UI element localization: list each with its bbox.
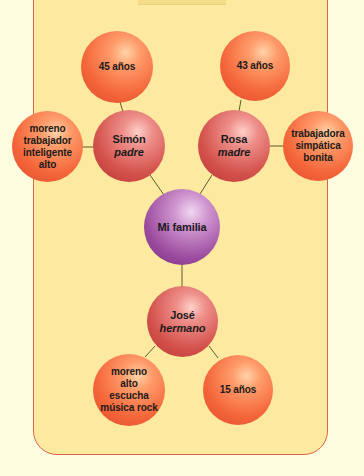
brother-trait: alto (120, 378, 137, 390)
brother-traits-node: moreno alto escucha música rock (93, 354, 165, 426)
mother-name: Rosa (221, 133, 248, 146)
father-trait: inteligente (23, 147, 72, 159)
father-trait: alto (39, 159, 56, 171)
mother-trait: simpática (295, 140, 340, 152)
mother-age-label: 43 años (237, 60, 274, 72)
mother-traits-node: trabajadora simpática bonita (283, 111, 353, 181)
brother-trait: música rock (100, 402, 157, 414)
link-brother-traits (145, 346, 155, 357)
mother-age-node: 43 años (220, 31, 290, 101)
mother-role: madre (218, 146, 251, 159)
link-mother-center (200, 175, 212, 194)
link-brother-age (209, 346, 218, 358)
center-node: Mi familia (144, 189, 220, 265)
brother-trait: moreno (111, 366, 147, 378)
mother-node: Rosa madre (198, 110, 270, 182)
brother-node: José hermano (147, 286, 218, 357)
link-father-center (150, 175, 164, 195)
brother-trait: escucha (109, 390, 148, 402)
father-age-node: 45 años (81, 31, 153, 103)
father-name: Simón (112, 133, 145, 146)
brother-role: hermano (160, 322, 206, 335)
brother-age-label: 15 años (220, 384, 257, 396)
father-node: Simón padre (93, 110, 165, 182)
link-mother-age (239, 100, 241, 111)
brother-age-node: 15 años (203, 355, 273, 425)
father-trait: moreno (29, 123, 65, 135)
center-label: Mi familia (157, 221, 206, 233)
mother-trait: bonita (303, 152, 332, 164)
brother-name: José (170, 309, 195, 322)
father-age-label: 45 años (99, 61, 136, 73)
father-traits-node: moreno trabajador inteligente alto (12, 111, 83, 182)
father-trait: trabajador (24, 135, 72, 147)
father-role: padre (114, 146, 143, 159)
mother-trait: trabajadora (291, 128, 344, 140)
